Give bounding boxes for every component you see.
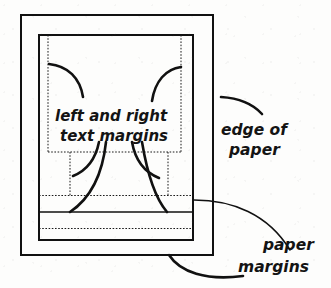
text-margins-label-line1: left and right <box>55 107 168 125</box>
text-margin-arrow-upper-left <box>49 64 83 97</box>
diagram-canvas: left and right text margins edge of pape… <box>0 0 331 288</box>
page-margins-diagram: left and right text margins edge of pape… <box>0 0 331 288</box>
paper-margins-label-line1: paper <box>262 236 315 254</box>
text-margins-label-line2: text margins <box>60 127 168 145</box>
text-margin-arrow-upper-right <box>152 67 181 101</box>
edge-of-paper-label-line2: paper <box>228 141 281 159</box>
edge-of-paper-pointer <box>221 97 262 114</box>
paper-margins-label-line2: margins <box>238 258 309 276</box>
paper-margins-pointer-lower <box>169 255 243 277</box>
edge-of-paper-label-line1: edge of <box>221 121 289 139</box>
text-margin-arrow-lower-left-short <box>73 142 99 176</box>
